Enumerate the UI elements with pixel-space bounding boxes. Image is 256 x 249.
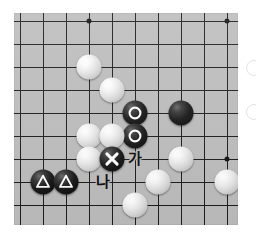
stone-white[interactable]	[215, 170, 239, 195]
board-label-na: 나	[96, 175, 110, 190]
go-board[interactable]: 가나	[14, 13, 238, 225]
grid-line-vertical	[204, 13, 205, 225]
grid-line-vertical	[20, 13, 21, 225]
stone-white[interactable]	[169, 147, 194, 172]
board-label-ga: 가	[128, 152, 142, 167]
stone-black-triangle[interactable]	[31, 170, 56, 195]
star-point	[225, 157, 230, 162]
grid-line-vertical	[112, 13, 113, 225]
stone-white[interactable]	[100, 124, 125, 149]
grid-line-vertical	[89, 13, 90, 225]
stone-black-circle[interactable]	[123, 101, 148, 126]
circle-marker-icon	[123, 124, 148, 149]
stone-black[interactable]	[169, 101, 194, 126]
stone-black-triangle[interactable]	[54, 170, 79, 195]
stone-white[interactable]	[100, 78, 125, 103]
stone-black-circle[interactable]	[123, 124, 148, 149]
star-point	[225, 19, 230, 24]
stone-white[interactable]	[77, 55, 102, 80]
stone-black-cross[interactable]	[100, 147, 125, 172]
margin-artifact-bottom	[246, 104, 256, 120]
margin-artifact-top	[246, 60, 256, 76]
stone-white[interactable]	[123, 193, 148, 218]
circle-marker-icon	[123, 101, 148, 126]
star-point	[87, 19, 92, 24]
stone-white[interactable]	[77, 124, 102, 149]
triangle-marker-icon	[31, 170, 56, 195]
cross-marker-icon	[100, 147, 125, 172]
triangle-marker-icon	[54, 170, 79, 195]
stone-white[interactable]	[77, 147, 102, 172]
stone-white[interactable]	[146, 170, 171, 195]
go-diagram-root: 가나	[0, 0, 256, 249]
